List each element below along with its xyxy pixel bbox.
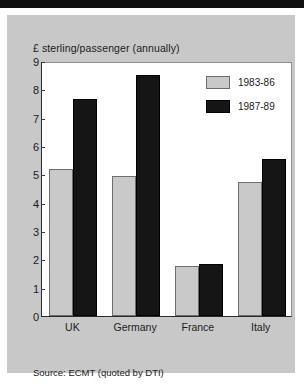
- y-axis: 0123456789: [19, 62, 39, 316]
- y-axis-tick-label: 3: [23, 226, 39, 238]
- x-axis-label-uk: UK: [65, 321, 80, 333]
- y-axis-tick-label: 5: [23, 169, 39, 181]
- x-axis-label-italy: Italy: [251, 321, 270, 333]
- y-axis-tick-mark: [41, 289, 45, 290]
- legend-item-1987-89: 1987-89: [206, 97, 292, 115]
- y-axis-tick-mark: [41, 147, 45, 148]
- bar-uk-series1: [73, 99, 97, 316]
- legend-label: 1987-89: [238, 101, 275, 112]
- y-axis-tick-mark: [41, 260, 45, 261]
- y-axis-tick-mark: [41, 204, 45, 205]
- x-axis-label-germany: Germany: [114, 321, 157, 333]
- chart-figure: £ sterling/passenger (annually) 01234567…: [0, 0, 304, 385]
- y-axis-tick-label: 6: [23, 141, 39, 153]
- bar-uk-series0: [49, 169, 73, 316]
- legend-swatch-icon: [206, 100, 230, 113]
- y-axis-tick-mark: [41, 62, 45, 63]
- y-axis-tick-label: 7: [23, 113, 39, 125]
- y-axis-tick-label: 4: [23, 198, 39, 210]
- y-axis-tick-label: 8: [23, 84, 39, 96]
- y-axis-tick-mark: [41, 90, 45, 91]
- legend: 1983-861987-89: [206, 73, 292, 121]
- y-axis-tick-label: 9: [23, 56, 39, 68]
- bar-germany-series1: [136, 75, 160, 316]
- y-axis-tick-label: 0: [23, 311, 39, 323]
- chart-panel: £ sterling/passenger (annually) 01234567…: [7, 15, 295, 373]
- legend-item-1983-86: 1983-86: [206, 73, 292, 91]
- y-axis-tick-mark: [41, 175, 45, 176]
- bar-italy-series1: [262, 159, 286, 316]
- y-axis-tick-mark: [41, 232, 45, 233]
- legend-label: 1983-86: [238, 77, 275, 88]
- y-axis-tick-label: 1: [23, 283, 39, 295]
- y-axis-tick-label: 2: [23, 254, 39, 266]
- chart-title: £ sterling/passenger (annually): [33, 42, 180, 54]
- bar-group: [112, 63, 160, 316]
- x-axis-label-france: France: [182, 321, 215, 333]
- legend-swatch-icon: [206, 76, 230, 89]
- y-axis-tick-mark: [41, 119, 45, 120]
- scan-artifact-bar: [0, 0, 304, 8]
- source-note: Source: ECMT (quoted by DTI): [33, 367, 164, 378]
- bar-italy-series0: [238, 182, 262, 316]
- bar-france-series0: [175, 266, 199, 316]
- bar-france-series1: [199, 264, 223, 316]
- bar-germany-series0: [112, 176, 136, 316]
- bar-group: [49, 63, 97, 316]
